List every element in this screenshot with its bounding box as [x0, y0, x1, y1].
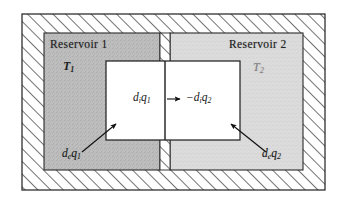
internal-flux-left-label: diq1	[133, 92, 151, 104]
reservoir-2-title: Reservoir 2	[229, 39, 287, 51]
di-right-symbol: −d	[186, 91, 200, 103]
q-left-subscript: 1	[147, 96, 151, 105]
internal-flux-right-label: −diq2	[186, 92, 211, 104]
temp1-subscript: 1	[70, 65, 74, 74]
q-right-subscript: 2	[207, 96, 211, 105]
external-flux-left-label: deq1	[62, 148, 81, 160]
thermodynamics-reservoir-figure: Reservoir 1 T1 Reservoir 2 T2 diq1 −diq2…	[0, 0, 341, 203]
temp2-symbol: T	[253, 60, 260, 74]
figure-canvas	[0, 0, 341, 203]
reservoir-1-title: Reservoir 1	[50, 39, 108, 51]
qe-left-subscript: 1	[77, 152, 81, 161]
temp2-subscript: 2	[260, 66, 264, 75]
external-flux-right-label: deq2	[262, 148, 281, 160]
contact-region-box	[106, 61, 240, 140]
reservoir-1-temperature-label: T1	[63, 60, 74, 72]
reservoir-2-temperature-label: T2	[253, 61, 264, 73]
qe-right-subscript: 2	[277, 152, 281, 161]
